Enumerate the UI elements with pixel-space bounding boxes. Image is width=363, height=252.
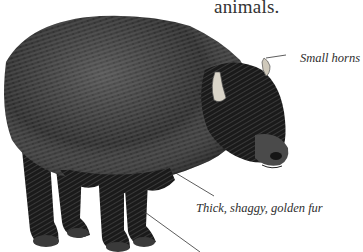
callout-small-horns: Small horns bbox=[300, 51, 360, 66]
book-page: animals. bbox=[0, 0, 363, 252]
leader-line-horns bbox=[266, 55, 286, 58]
leader-line-fur-1 bbox=[174, 172, 214, 196]
callout-shaggy-fur: Thick, shaggy, golden fur bbox=[196, 201, 323, 216]
